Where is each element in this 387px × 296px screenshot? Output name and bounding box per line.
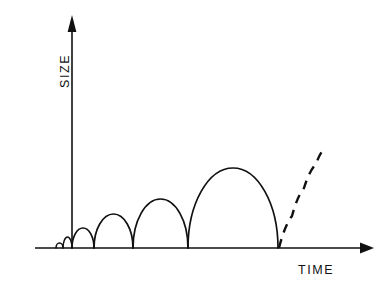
y-axis-label: SIZE — [58, 54, 72, 88]
x-axis-arrowhead — [360, 243, 374, 254]
growth-arch-3 — [72, 228, 94, 248]
growth-arch-4 — [94, 214, 133, 248]
diagram-canvas — [0, 0, 387, 296]
growth-arch-6 — [188, 168, 278, 248]
growth-arch-5 — [133, 199, 188, 248]
projected-growth-dashed-curve — [279, 148, 325, 248]
x-axis-label: TIME — [298, 263, 334, 277]
growth-arch-2 — [63, 237, 72, 248]
y-axis-arrowhead — [68, 15, 77, 32]
growth-cycle-diagram: SIZE TIME — [0, 0, 387, 296]
